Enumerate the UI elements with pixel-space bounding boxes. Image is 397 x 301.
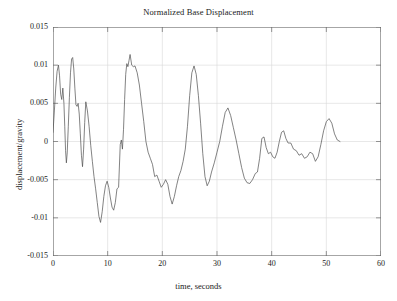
x-tick-label: 0 [40,259,66,268]
grid-lines [53,27,381,256]
y-tick-label: 0.01 [4,60,48,69]
y-tick-label: -0.01 [4,213,48,222]
y-tick-label: -0.005 [4,175,48,184]
plot-svg [53,27,381,256]
y-tick-label: 0.015 [4,22,48,31]
x-tick-label: 60 [368,259,394,268]
chart-title: Normalized Base Displacement [0,7,397,17]
y-tick-label: 0 [4,137,48,146]
x-tick-label: 30 [204,259,230,268]
data-series-line [53,54,340,222]
y-tick-label: 0.005 [4,98,48,107]
x-tick-label: 50 [313,259,339,268]
x-tick-label: 20 [149,259,175,268]
x-tick-label: 10 [95,259,121,268]
chart-figure: Normalized Base Displacement displacemen… [0,0,397,301]
plot-area [53,27,381,256]
x-axis-label: time, seconds [0,281,397,291]
x-tick-label: 40 [259,259,285,268]
